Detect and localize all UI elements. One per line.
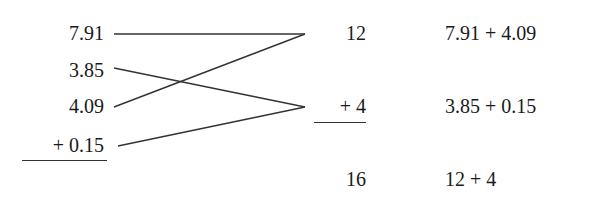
- addend-1: 7.91: [20, 23, 104, 43]
- line-0.15-to-4: [118, 107, 305, 146]
- total: 16: [310, 169, 366, 189]
- expression-1: 7.91 + 4.09: [445, 23, 536, 43]
- partial-sum-1: 12: [310, 23, 366, 43]
- sum-underline-middle: [314, 122, 366, 123]
- addend-3: 4.09: [20, 96, 104, 116]
- partial-sum-2: + 4: [310, 96, 366, 116]
- line-3.85-to-4: [114, 68, 305, 107]
- expression-2: 3.85 + 0.15: [445, 96, 536, 116]
- addend-4: + 0.15: [20, 135, 104, 155]
- line-4.09-to-12: [114, 34, 305, 107]
- expression-3: 12 + 4: [445, 169, 496, 189]
- addend-2: 3.85: [20, 60, 104, 80]
- sum-underline-left: [22, 160, 107, 161]
